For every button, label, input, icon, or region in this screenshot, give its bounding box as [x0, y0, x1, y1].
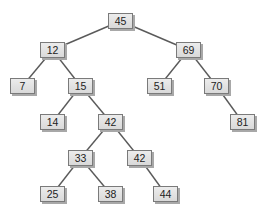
tree-node-25: 25: [40, 186, 65, 202]
tree-diagram: 45 12 69 7 15 51 70 14 42 81 33 42 25 38…: [0, 0, 272, 222]
tree-node-33: 33: [68, 150, 93, 166]
tree-node-38: 38: [98, 186, 123, 202]
tree-node-69: 69: [176, 42, 201, 58]
tree-node-7: 7: [10, 78, 35, 94]
tree-node-44: 44: [153, 186, 178, 202]
tree-node-42-b: 42: [127, 150, 152, 166]
tree-node-14: 14: [40, 114, 65, 130]
tree-node-12: 12: [40, 42, 65, 58]
tree-node-45: 45: [108, 13, 133, 29]
tree-node-70: 70: [204, 78, 229, 94]
tree-node-81: 81: [230, 114, 255, 130]
tree-node-42-a: 42: [98, 114, 123, 130]
tree-node-51: 51: [147, 78, 172, 94]
tree-node-15: 15: [68, 78, 93, 94]
